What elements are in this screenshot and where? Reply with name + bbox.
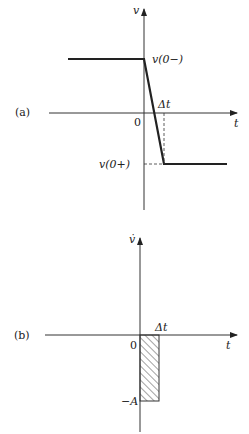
waveform-v bbox=[68, 59, 227, 164]
panel-label-a: (a) bbox=[15, 106, 30, 119]
upper-level-label: v(0−) bbox=[152, 53, 183, 66]
diagram-a: (a) v t 0 Δt v(0−) v(0+) bbox=[15, 4, 239, 210]
diagram-b: (b) v̇ t 0 Δt −A bbox=[14, 233, 237, 432]
origin-label-a: 0 bbox=[134, 116, 141, 129]
origin-label-b: 0 bbox=[130, 339, 137, 352]
delta-t-label-b: Δt bbox=[154, 321, 168, 334]
panel-label-b: (b) bbox=[14, 329, 30, 342]
x-axis-label-b: t bbox=[226, 339, 231, 352]
lower-level-label: v(0+) bbox=[99, 158, 130, 171]
x-axis-label-a: t bbox=[234, 117, 239, 130]
figure: (a) v t 0 Δt v(0−) v(0+) (b) v̇ t 0 Δt −… bbox=[0, 0, 249, 434]
delta-t-label-a: Δt bbox=[157, 98, 171, 111]
pulse-level-label: −A bbox=[121, 395, 138, 408]
y-axis-label-b: v̇ bbox=[129, 233, 136, 246]
impulse-pulse bbox=[140, 335, 159, 401]
y-axis-label-a: v bbox=[133, 4, 140, 17]
